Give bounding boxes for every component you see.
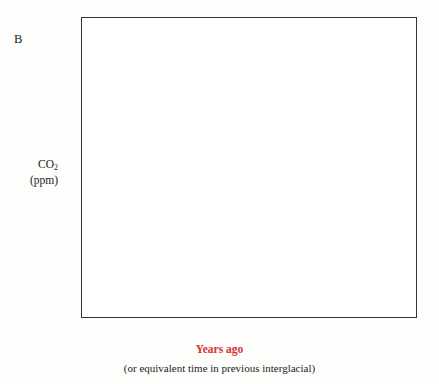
- y-axis-label: CO2 (ppm): [6, 158, 58, 187]
- panel-label: B: [14, 32, 22, 47]
- y-axis-label-unit: (ppm): [30, 174, 58, 186]
- data-series-layer: [82, 18, 415, 316]
- x-axis-label: Years ago: [0, 343, 439, 355]
- y-axis-label-subscript: 2: [54, 163, 58, 172]
- plot-area: [81, 17, 417, 318]
- y-axis-label-main: CO: [38, 158, 54, 170]
- chart-figure: B CO2 (ppm) Years ago (or equivalent tim…: [0, 0, 439, 384]
- x-axis-sublabel: (or equivalent time in previous intergla…: [0, 362, 439, 374]
